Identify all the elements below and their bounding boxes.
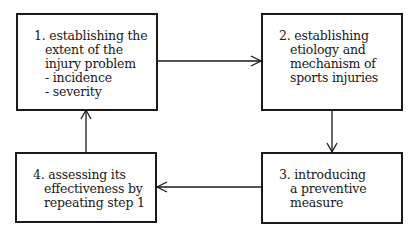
step-line: establishing — [294, 28, 368, 43]
step-1-text: 1. establishing the extent of the injury… — [34, 29, 147, 99]
step-line: etiology and — [279, 43, 378, 57]
step-line: mechanism of — [279, 57, 378, 71]
step-3-box: 3. introducing a preventive measure — [261, 152, 403, 224]
step-line: extent of the — [34, 43, 147, 57]
step-number: 4. — [33, 167, 45, 182]
step-line: assessing its — [48, 167, 125, 182]
step-3-text: 3. introducing a preventive measure — [279, 168, 366, 210]
step-line: - incidence — [34, 71, 147, 85]
step-line: - severity — [34, 85, 147, 99]
step-line: measure — [279, 196, 366, 210]
step-line: repeating step 1 — [33, 196, 145, 210]
step-line: sports injuries — [279, 71, 378, 85]
step-2-box: 2. establishing etiology and mechanism o… — [261, 13, 403, 111]
step-1-box: 1. establishing the extent of the injury… — [16, 13, 158, 111]
step-2-text: 2. establishing etiology and mechanism o… — [279, 29, 378, 85]
step-number: 1. — [34, 28, 46, 43]
step-4-text: 4. assessing its effectiveness by repeat… — [33, 168, 145, 210]
step-line: a preventive — [279, 182, 366, 196]
step-line: injury problem — [34, 57, 147, 71]
step-4-box: 4. assessing its effectiveness by repeat… — [15, 152, 157, 223]
step-line: introducing — [294, 167, 365, 182]
step-number: 2. — [279, 28, 291, 43]
step-number: 3. — [279, 167, 291, 182]
step-line: effectiveness by — [33, 182, 145, 196]
step-line: establishing the — [49, 28, 147, 43]
